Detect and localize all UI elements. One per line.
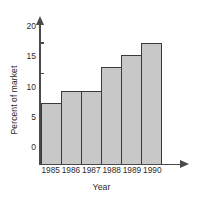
y-tick-label: 0: [20, 143, 36, 152]
x-tick-label: 1985: [41, 166, 61, 174]
x-axis-title: Year: [41, 182, 163, 192]
bar-1988: [101, 67, 123, 164]
bar-1985: [41, 103, 63, 163]
bar-1990: [141, 43, 163, 164]
y-tick-label: 20: [20, 22, 36, 31]
bar-chart-figure: Percent of market 0 5 10 15 20 1985 1: [0, 0, 212, 204]
bar-1989: [121, 55, 143, 164]
x-axis-arrow-icon: [180, 160, 189, 168]
x-tick-label: 1986: [61, 166, 81, 174]
y-tick-label: 15: [20, 52, 36, 61]
y-tick-label: 5: [20, 113, 36, 122]
bar-group: [41, 31, 163, 164]
y-axis-title-text: Percent of market: [9, 66, 19, 135]
bar-1987: [81, 91, 103, 164]
y-tick-label: 10: [20, 82, 36, 91]
y-axis-tick-labels: 0 5 10 15 20: [20, 0, 36, 204]
bar-1986: [61, 91, 83, 164]
x-tick-label: 1987: [81, 166, 101, 174]
x-tick-label: 1989: [122, 166, 142, 174]
x-tick-label: 1988: [101, 166, 121, 174]
plot-area: [39, 18, 189, 165]
x-axis-tick-labels: 1985 1986 1987 1988 1989 1990: [41, 166, 163, 174]
y-axis-arrow-icon: [36, 16, 44, 25]
x-tick-label: 1990: [142, 166, 162, 174]
